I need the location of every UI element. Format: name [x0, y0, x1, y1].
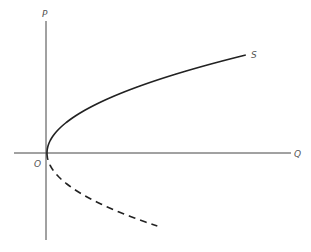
p-axis-label: P [42, 9, 48, 19]
origin-label: O [34, 159, 41, 169]
supply-curve [47, 55, 246, 153]
q-axis-label: Q [294, 149, 301, 159]
negative-branch-curve [47, 153, 157, 226]
supply-curve-label: S [251, 50, 257, 60]
supply-diagram: P Q O S [0, 0, 311, 252]
